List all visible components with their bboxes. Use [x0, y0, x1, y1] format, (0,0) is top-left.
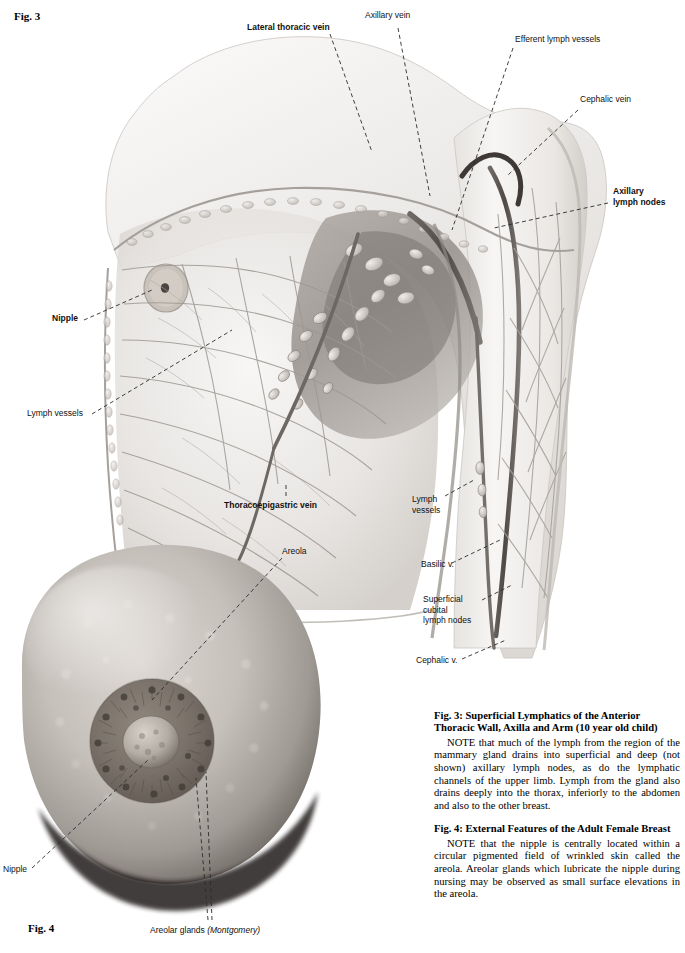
figure4-photograph	[2, 540, 342, 920]
fig4-caption-heading: Fig. 4: External Features of the Adult F…	[434, 823, 680, 835]
fig4-caption-note: NOTE that the nipple is centrally locate…	[434, 838, 680, 901]
label-basilic-vein: Basilic v.	[421, 559, 454, 570]
label-axillary-lymph-nodes: Axillary lymph nodes	[613, 186, 665, 207]
page-canvas: Fig. 3 Lateral thoracic vein Axillary ve…	[0, 0, 685, 953]
fig3-caption-heading: Fig. 3: Superficial Lymphatics of the An…	[434, 710, 680, 735]
label-thoracoepigastric-vein: Thoracoepigastric vein	[224, 500, 317, 511]
fig3-caption-note: NOTE that much of the lymph from the reg…	[434, 737, 680, 813]
label-areola: Areola	[282, 546, 307, 557]
figure3-tag: Fig. 3	[14, 10, 40, 22]
label-cephalic-vein-lower: Cephalic v.	[416, 655, 457, 666]
label-cephalic-vein: Cephalic vein	[580, 94, 631, 105]
label-areolar-glands: Areolar glands (Montgomery)	[150, 925, 260, 936]
label-lymph-vessels-left: Lymph vessels	[27, 408, 83, 419]
areolar-glands-eponym: (Montgomery)	[207, 925, 260, 935]
label-superficial-cubital-lymph-nodes: Superficial cubital lymph nodes	[423, 594, 471, 626]
label-nipple-fig4: Nipple	[3, 864, 27, 875]
nipple-areola-fig3	[144, 264, 188, 312]
label-efferent-lymph-vessels: Efferent lymph vessels	[515, 34, 600, 45]
figure4-tag: Fig. 4	[28, 922, 54, 934]
label-axillary-vein: Axillary vein	[365, 10, 410, 21]
areolar-glands-text: Areolar glands	[150, 925, 207, 935]
caption-block: Fig. 3: Superficial Lymphatics of the An…	[434, 710, 680, 912]
label-nipple-fig3: Nipple	[52, 313, 78, 324]
label-lymph-vessels-arm: Lymph vessels	[412, 494, 440, 515]
label-lateral-thoracic-vein: Lateral thoracic vein	[247, 22, 330, 33]
